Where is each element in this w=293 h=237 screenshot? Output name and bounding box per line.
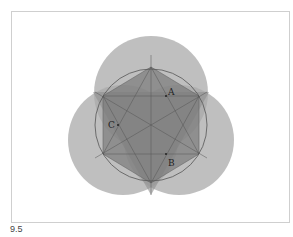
point-c-label: C (108, 120, 115, 130)
point-b-label: B (168, 158, 175, 168)
point-c-dot (117, 124, 119, 126)
geometry-diagram: A B C (0, 0, 293, 237)
point-a-dot (165, 95, 167, 97)
figure-caption: 9.5 (10, 224, 23, 234)
point-a-label: A (167, 87, 175, 97)
point-b-dot (165, 153, 167, 155)
